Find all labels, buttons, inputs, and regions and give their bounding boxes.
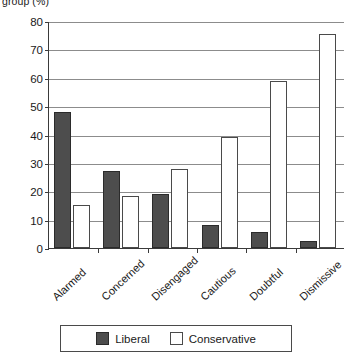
bar[interactable]	[270, 81, 287, 248]
bar[interactable]	[202, 225, 219, 248]
y-axis-tick-label: 30	[30, 158, 43, 170]
x-axis-category-label: Alarmed	[50, 266, 88, 303]
plot-area: 01020304050607080	[48, 22, 344, 249]
x-axis-category-label: Concerned	[99, 257, 147, 302]
bar[interactable]	[103, 171, 120, 248]
bar[interactable]	[251, 232, 268, 248]
bar[interactable]	[300, 241, 317, 248]
x-axis-labels: AlarmedConcernedDisengagedCautiousDoubtf…	[48, 252, 344, 314]
y-axis-tick-label: 50	[30, 101, 43, 113]
bar-group	[197, 22, 246, 248]
y-axis-tick-label: 20	[30, 186, 43, 198]
bar-groups	[49, 22, 344, 248]
bar[interactable]	[122, 196, 139, 248]
x-axis-category-label: Dismissive	[297, 258, 344, 303]
y-axis-title: group (%)	[2, 0, 49, 7]
y-axis-tick-mark	[45, 249, 49, 250]
bar-chart: group (%) 01020304050607080 AlarmedConce…	[0, 0, 353, 356]
y-axis-tick-label: 0	[37, 243, 43, 255]
y-axis-tick-label: 70	[30, 44, 43, 56]
bar-group	[295, 22, 344, 248]
bar[interactable]	[73, 205, 90, 248]
x-axis-category-label: Disengaged	[149, 254, 200, 303]
bar[interactable]	[54, 112, 71, 248]
legend-item[interactable]: Liberal	[96, 332, 150, 345]
legend-swatch-conservative	[170, 332, 183, 345]
bar[interactable]	[171, 169, 188, 248]
x-axis-category-label: Doubtful	[247, 266, 285, 303]
legend-label: Liberal	[115, 333, 150, 345]
bar[interactable]	[221, 137, 238, 248]
bar[interactable]	[152, 194, 169, 248]
bar[interactable]	[319, 34, 336, 248]
y-axis-tick-label: 60	[30, 73, 43, 85]
bar-group	[49, 22, 98, 248]
bar-group	[98, 22, 147, 248]
legend-item[interactable]: Conservative	[170, 332, 256, 345]
legend-swatch-liberal	[96, 332, 109, 345]
y-axis-tick-label: 10	[30, 215, 43, 227]
bar-group	[147, 22, 196, 248]
chart-legend: LiberalConservative	[60, 325, 292, 352]
legend-label: Conservative	[189, 333, 256, 345]
bar-group	[246, 22, 295, 248]
y-axis-tick-label: 40	[30, 130, 43, 142]
x-axis-category-label: Cautious	[198, 264, 238, 302]
y-axis-tick-label: 80	[30, 16, 43, 28]
